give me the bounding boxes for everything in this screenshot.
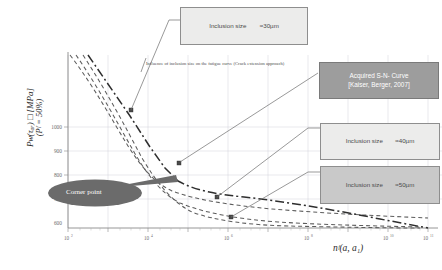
- y-tick-label: 900: [54, 148, 62, 154]
- svg-text:10: 10: [304, 235, 310, 241]
- x-tick-marks: [68, 228, 428, 232]
- callout-inclusion-30-label: Inclusion size: [209, 22, 246, 29]
- svg-text:10: 10: [383, 235, 389, 241]
- callout-inclusion-30-value: ≈30µm: [260, 22, 279, 29]
- svg-text:11: 11: [430, 234, 434, 238]
- fatigue-curve-figure: 1000 900 800 700 600 10 2 10 4 10 6 10 8: [0, 0, 442, 270]
- leader-inclusion-50: [231, 172, 320, 217]
- callout-acquired-line2: [Kaiser, Berger, 2007]: [348, 81, 409, 88]
- svg-text:10: 10: [224, 235, 230, 241]
- callout-inclusion-40-label: Inclusion size: [346, 137, 383, 144]
- callout-inclusion-50-value: ≈50µm: [395, 181, 414, 188]
- corner-point-label: Corner point: [66, 188, 102, 196]
- y-tick-labels: 1000 900 800 700 600: [51, 124, 62, 226]
- svg-text:4: 4: [151, 234, 153, 238]
- callout-inclusion-50-label: Inclusion size: [346, 181, 383, 188]
- svg-text:10: 10: [390, 234, 394, 238]
- callout-inclusion-40-value: ≈40µm: [395, 137, 414, 144]
- callout-acquired-line1: Acquired S-N- Curve: [350, 72, 409, 79]
- svg-text:8: 8: [311, 234, 313, 238]
- x-tick-label: 10 4: [144, 234, 153, 241]
- x-tick-label: 10 10: [383, 234, 394, 241]
- svg-text:10: 10: [423, 235, 429, 241]
- y-tick-label: 800: [54, 172, 62, 178]
- callout-inclusion-50[interactable]: Inclusion size ≈50µm: [320, 166, 440, 204]
- x-tick-label: 10 6: [224, 234, 233, 241]
- y-tick-label: 1000: [51, 124, 62, 130]
- callout-inclusion-30[interactable]: Inclusion size ≈30µm: [180, 7, 308, 45]
- svg-text:6: 6: [231, 234, 233, 238]
- y-tick-label: 600: [54, 220, 62, 226]
- svg-text:2: 2: [71, 234, 73, 238]
- x-axis-title: nᶠ(a, a₁): [333, 243, 363, 253]
- x-tick-label: 10 8: [304, 234, 313, 241]
- svg-text:10: 10: [64, 235, 70, 241]
- influence-note: Influence of inclusion size on the fatig…: [146, 61, 284, 66]
- leader-inclusion-40: [217, 128, 320, 197]
- leader-acquired-sn: [180, 73, 318, 162]
- callout-acquired-sn-curve[interactable]: Acquired S-N- Curve [Kaiser, Berger, 200…: [319, 62, 439, 99]
- x-tick-labels: 10 2 10 4 10 6 10 8 10 10 10 11: [64, 234, 434, 241]
- svg-text:10: 10: [144, 235, 150, 241]
- x-tick-label: 10 2: [64, 234, 73, 241]
- callout-inclusion-40[interactable]: Inclusion size ≈40µm: [320, 123, 440, 160]
- x-tick-label: 10 11: [423, 234, 434, 241]
